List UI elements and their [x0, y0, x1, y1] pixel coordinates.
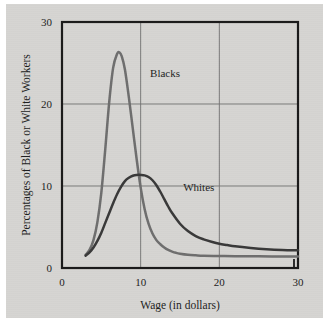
- figure-panel: 01020300102030 BlacksWhites Wage (in dol…: [6, 4, 323, 318]
- plot-border: [62, 22, 298, 268]
- x-axis-title: Wage (in dollars): [140, 299, 220, 312]
- y-tick-label: 20: [41, 98, 53, 110]
- y-tick-label: 10: [41, 180, 53, 192]
- wage-distribution-chart: 01020300102030 BlacksWhites Wage (in dol…: [6, 4, 323, 318]
- data-series: [86, 52, 298, 257]
- grid-lines: [62, 22, 298, 268]
- series-annotations: BlacksWhites: [150, 67, 214, 193]
- y-tick-label: 30: [41, 16, 53, 28]
- series-label-whites: Whites: [183, 181, 214, 193]
- y-tick-label: 0: [47, 262, 53, 274]
- x-tick-label: 20: [214, 276, 226, 288]
- x-tick-label: 0: [59, 276, 65, 288]
- series-label-blacks: Blacks: [150, 67, 180, 79]
- axis-ticks: 01020300102030: [41, 16, 304, 288]
- plot-frame: [62, 22, 298, 268]
- y-axis-title: Percentages of Black or White Workers: [20, 54, 33, 236]
- x-tick-label: 10: [135, 276, 147, 288]
- x-tick-label: 30: [293, 276, 305, 288]
- series-curve-blacks: [86, 52, 298, 257]
